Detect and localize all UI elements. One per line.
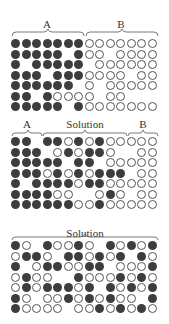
filled-circle-icon [11, 137, 20, 146]
open-circle-icon [53, 92, 62, 101]
filled-circle-icon [43, 137, 52, 146]
empty-slot [106, 262, 115, 271]
empty-slot [95, 158, 104, 167]
filled-circle-icon [85, 283, 94, 292]
open-circle-icon [137, 179, 146, 188]
open-circle-icon [64, 262, 73, 271]
open-circle-icon [95, 50, 104, 59]
filled-circle-icon [11, 262, 20, 271]
open-circle-icon [74, 148, 83, 157]
open-circle-icon [116, 294, 125, 303]
brace-a [12, 29, 84, 36]
open-circle-icon [127, 81, 136, 90]
brace-b [86, 29, 158, 36]
open-circle-icon [64, 137, 73, 146]
filled-circle-icon [106, 241, 115, 250]
filled-circle-icon [32, 60, 41, 69]
open-circle-icon [43, 169, 52, 178]
filled-circle-icon [11, 92, 20, 101]
filled-circle-icon [53, 81, 62, 90]
filled-circle-icon [22, 50, 31, 59]
filled-circle-icon [32, 39, 41, 48]
filled-circle-icon [53, 179, 62, 188]
filled-circle-icon [22, 252, 31, 261]
open-circle-icon [116, 179, 125, 188]
filled-circle-icon [74, 241, 83, 250]
empty-slot [137, 294, 146, 303]
empty-slot [32, 294, 41, 303]
filled-circle-icon [11, 158, 20, 167]
filled-circle-icon [11, 241, 20, 250]
open-circle-icon [95, 294, 104, 303]
open-circle-icon [148, 169, 157, 178]
open-circle-icon [148, 200, 157, 209]
open-circle-icon [32, 283, 41, 292]
open-circle-icon [137, 71, 146, 80]
open-circle-icon [116, 60, 125, 69]
filled-circle-icon [43, 102, 52, 111]
open-circle-icon [85, 273, 94, 282]
empty-slot [85, 60, 94, 69]
filled-circle-icon [11, 148, 20, 157]
open-circle-icon [137, 200, 146, 209]
open-circle-icon [85, 169, 94, 178]
open-circle-icon [148, 71, 157, 80]
open-circle-icon [95, 190, 104, 199]
filled-circle-icon [137, 252, 146, 261]
filled-circle-icon [53, 50, 62, 59]
filled-circle-icon [74, 50, 83, 59]
empty-slot [95, 81, 104, 90]
filled-circle-icon [74, 60, 83, 69]
open-circle-icon [116, 158, 125, 167]
open-circle-icon [106, 148, 115, 157]
filled-circle-icon [11, 304, 20, 313]
filled-circle-icon [95, 137, 104, 146]
filled-circle-icon [95, 252, 104, 261]
open-circle-icon [127, 294, 136, 303]
open-circle-icon [64, 92, 73, 101]
open-circle-icon [137, 158, 146, 167]
open-circle-icon [116, 190, 125, 199]
filled-circle-icon [32, 71, 41, 80]
filled-circle-icon [22, 200, 31, 209]
filled-circle-icon [74, 158, 83, 167]
filled-circle-icon [22, 190, 31, 199]
filled-circle-icon [22, 39, 31, 48]
filled-circle-icon [22, 158, 31, 167]
open-circle-icon [74, 283, 83, 292]
open-circle-icon [85, 102, 94, 111]
filled-circle-icon [11, 50, 20, 59]
brace-b [128, 130, 158, 136]
filled-circle-icon [137, 273, 146, 282]
filled-circle-icon [11, 169, 20, 178]
filled-circle-icon [64, 294, 73, 303]
empty-slot [127, 71, 136, 80]
open-circle-icon [106, 92, 115, 101]
open-circle-icon [106, 179, 115, 188]
open-circle-icon [127, 200, 136, 209]
empty-slot [95, 241, 104, 250]
filled-circle-icon [64, 39, 73, 48]
open-circle-icon [116, 102, 125, 111]
open-circle-icon [127, 60, 136, 69]
filled-circle-icon [95, 262, 104, 271]
open-circle-icon [74, 294, 83, 303]
empty-slot [127, 148, 136, 157]
open-circle-icon [106, 158, 115, 167]
open-circle-icon [106, 137, 115, 146]
empty-slot [85, 190, 94, 199]
open-circle-icon [53, 241, 62, 250]
empty-slot [95, 283, 104, 292]
filled-circle-icon [32, 50, 41, 59]
open-circle-icon [74, 304, 83, 313]
open-circle-icon [95, 39, 104, 48]
open-circle-icon [148, 273, 157, 282]
open-circle-icon [116, 92, 125, 101]
open-circle-icon [148, 158, 157, 167]
filled-circle-icon [32, 190, 41, 199]
open-circle-icon [22, 294, 31, 303]
filled-circle-icon [32, 158, 41, 167]
filled-circle-icon [127, 241, 136, 250]
empty-slot [106, 50, 115, 59]
filled-circle-icon [32, 148, 41, 157]
